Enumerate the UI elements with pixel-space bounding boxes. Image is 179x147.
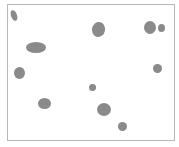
- blob-11: [118, 122, 127, 131]
- blob-10: [97, 103, 111, 116]
- blob-6: [158, 24, 165, 32]
- blob-7: [153, 64, 162, 73]
- blob-2: [26, 42, 46, 53]
- blob-5: [144, 21, 156, 34]
- blob-9: [38, 98, 51, 109]
- blob-3: [14, 67, 25, 79]
- blob-8: [89, 84, 96, 91]
